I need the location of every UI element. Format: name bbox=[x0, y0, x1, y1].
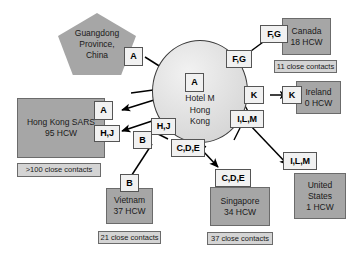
tag-hub-fg: F,G bbox=[226, 50, 252, 68]
tag-hub-cde: C,D,E bbox=[171, 139, 205, 157]
tag-singapore-cde: C,D,E bbox=[215, 169, 251, 187]
singapore-contacts: 37 close contacts bbox=[207, 232, 273, 245]
hong-kong-sars-node: Hong Kong SARS 95 HCW bbox=[17, 98, 105, 158]
canada-node: Canada 18 HCW bbox=[282, 18, 331, 55]
tag-source-a: A bbox=[124, 47, 143, 66]
tag-ireland-k: K bbox=[282, 86, 302, 104]
vietnam-line-2: 37 HCW bbox=[113, 206, 145, 217]
tag-vietnam-b: B bbox=[120, 174, 139, 192]
vietnam-contacts: 21 close contacts bbox=[98, 231, 161, 244]
sars-transmission-diagram: Guangdong Province, China Hotel M Hong K… bbox=[0, 0, 358, 253]
tag-hub-a: A bbox=[185, 73, 204, 92]
ireland-line-1: Ireland bbox=[306, 87, 332, 98]
tag-hub-b: B bbox=[133, 131, 152, 149]
guangdong-line-1: Guangdong bbox=[75, 28, 119, 39]
united-states-line-2: States bbox=[308, 191, 332, 202]
tag-hongkong-hj: H,J bbox=[94, 125, 120, 142]
hotel-line-1: Hotel M bbox=[185, 93, 214, 103]
tag-canada-fg: F,G bbox=[260, 25, 288, 43]
tag-hongkong-a: A bbox=[94, 101, 113, 120]
guangdong-line-3: China bbox=[86, 50, 108, 61]
singapore-node: Singapore 34 HCW bbox=[210, 187, 270, 226]
canada-contacts: 11 close contacts bbox=[274, 60, 337, 73]
united-states-line-1: United bbox=[308, 180, 333, 191]
canada-line-2: 18 HCW bbox=[290, 37, 322, 48]
guangdong-line-2: Province, bbox=[79, 39, 114, 50]
stub-ilm bbox=[234, 128, 240, 140]
vietnam-line-1: Vietnam bbox=[114, 195, 145, 206]
hong-kong-sars-line-2: 95 HCW bbox=[45, 128, 77, 139]
united-states-line-3: 1 HCW bbox=[306, 202, 333, 213]
singapore-line-1: Singapore bbox=[221, 196, 260, 207]
vietnam-node: Vietnam 37 HCW bbox=[106, 188, 153, 224]
tag-hub-hj: H,J bbox=[151, 118, 176, 135]
tag-unitedstates-ilm: I,L,M bbox=[283, 152, 317, 170]
ireland-line-2: 0 HCW bbox=[305, 98, 332, 109]
singapore-line-2: 34 HCW bbox=[224, 207, 256, 218]
tag-hub-k: K bbox=[244, 86, 264, 104]
tag-hub-ilm: I,L,M bbox=[230, 110, 264, 128]
canada-line-1: Canada bbox=[292, 26, 322, 37]
hong-kong-sars-contacts: >100 close contacts bbox=[17, 163, 101, 177]
united-states-node: United States 1 HCW bbox=[294, 173, 346, 219]
hong-kong-sars-line-1: Hong Kong SARS bbox=[27, 117, 95, 128]
ireland-node: Ireland 0 HCW bbox=[296, 81, 341, 114]
hotel-line-3: Kong bbox=[190, 116, 210, 126]
hotel-line-2: Hong bbox=[190, 105, 210, 115]
